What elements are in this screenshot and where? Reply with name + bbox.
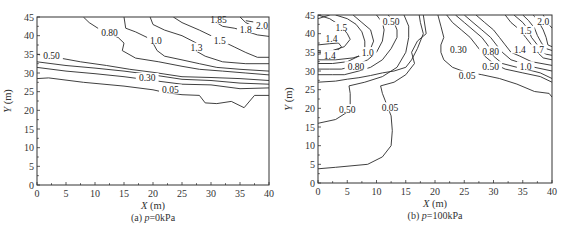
contour-label: 0.80 [101,28,118,38]
x-tick-label: 10 [90,188,100,199]
x-tick-label: 0 [316,186,321,197]
contour-lines [318,15,552,169]
y-tick-label: 5 [29,161,34,172]
x-tick-label: 35 [518,186,528,197]
contour-figure: 0.050.300.500.801.01.31.51.851.82.005101… [0,0,564,236]
contour-label: 1.4 [514,45,526,55]
y-tick-label: 35 [305,47,315,58]
y-axis-label: Y (m) [2,89,14,113]
y-tick-label: 45 [24,12,34,23]
contour-label: 1.8 [240,25,252,35]
y-tick-label: 40 [24,30,34,41]
contour-label: 0.50 [482,62,499,72]
x-tick-label: 40 [264,188,274,199]
y-tick-label: 15 [305,122,315,133]
plot-frame [318,15,552,183]
x-tick-label: 30 [206,188,216,199]
contour-label: 1.4 [324,51,336,61]
y-tick-label: 30 [305,66,315,77]
x-tick-label: 0 [35,188,40,199]
contour-label: 0.80 [482,47,499,57]
x-tick-label: 20 [148,188,158,199]
panel-caption: (b) p=100kPa [408,210,463,222]
contour-label: 1.5 [214,36,226,46]
x-tick-label: 25 [177,188,187,199]
y-tick-label: 0 [310,178,315,189]
y-tick-label: 20 [305,103,315,114]
x-tick-label: 5 [64,188,69,199]
y-tick-label: 10 [305,140,315,151]
x-tick-label: 15 [119,188,129,199]
x-axis-label: X (m) [140,200,166,212]
y-tick-label: 45 [305,10,315,21]
x-tick-label: 30 [489,186,499,197]
contour-label: 1.3 [191,43,203,53]
contour-label: 1.4 [326,34,338,44]
contour-label: 0.30 [139,73,156,83]
x-tick-label: 20 [430,186,440,197]
y-tick-label: 35 [24,49,34,60]
y-tick-label: 5 [310,159,315,170]
contour-label: 1.7 [532,45,544,55]
contour-label: 0.80 [348,62,365,72]
contour-label: 0.05 [382,103,399,113]
y-tick-label: 20 [24,105,34,116]
x-tick-label: 5 [345,186,350,197]
x-tick-label: 10 [372,186,382,197]
contour-label: 1.0 [520,62,532,72]
contour-label: 2.0 [537,17,549,27]
contour-label: 2.0 [256,21,268,31]
contour-label: 1.5 [335,23,347,33]
panel-caption: (a) p=0kPa [131,212,176,224]
contour-label: 0.05 [162,85,179,95]
x-axis-label: X (m) [422,198,448,210]
contour-label: 1.5 [520,26,532,36]
contour-panel-b: 0.050.050.500.300.500.801.01.41.51.72.00… [283,10,557,223]
x-tick-label: 15 [401,186,411,197]
y-tick-label: 0 [29,180,34,191]
y-tick-label: 10 [24,142,34,153]
contour-label: 0.50 [383,17,400,27]
contour-label: 0.50 [43,51,60,61]
contour-lines [37,17,269,108]
x-tick-label: 40 [547,186,557,197]
contour-label: 0.30 [450,45,467,55]
x-tick-label: 25 [459,186,469,197]
contour-label: 0.05 [459,71,476,81]
y-tick-label: 30 [24,68,34,79]
contour-label: 1.0 [150,36,162,46]
y-tick-label: 15 [24,124,34,135]
y-tick-label: 25 [305,84,315,95]
y-axis-label: Y (m) [283,87,295,111]
contour-panel-a: 0.050.300.500.801.01.31.51.851.82.005101… [2,12,274,225]
contour-label: 1.0 [362,48,374,58]
y-tick-label: 40 [305,28,315,39]
x-tick-label: 35 [235,188,245,199]
contour-label: 0.50 [339,105,356,115]
y-tick-label: 25 [24,86,34,97]
